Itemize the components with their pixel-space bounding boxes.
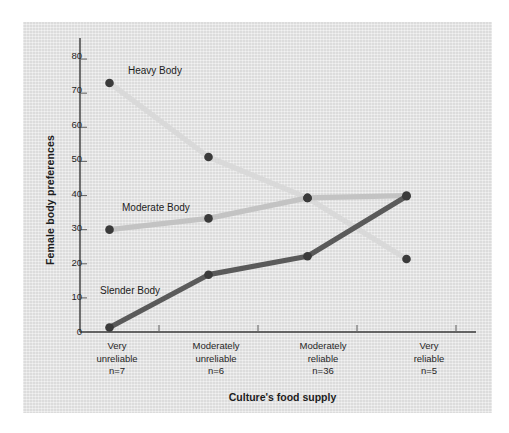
x-tick-label-moderately-reliable: Moderately reliable n=36 [275,340,371,378]
x-tick-line-1: Very [384,340,474,353]
figure: Female body preferences Culture's food s… [0,0,509,433]
x-tick-label-very-reliable: Very reliable n=5 [384,340,474,378]
x-tick-line-2: unreliable [72,353,162,366]
x-tick-line-1: Moderately [275,340,371,353]
y-tick-label: 10 [56,291,82,302]
data-point [105,323,114,332]
y-tick-label: 80 [56,50,82,61]
data-point [204,270,213,279]
y-tick-label: 30 [56,222,82,233]
x-tick-line-3: n=6 [168,365,264,378]
data-point [303,252,312,261]
series-heavy-body [110,83,407,259]
y-tick-label: 70 [56,84,82,95]
data-point [303,194,312,203]
x-tick-line-2: reliable [384,353,474,366]
y-tick-label: 50 [56,153,82,164]
x-tick-line-3: n=7 [72,365,162,378]
data-point [402,192,411,201]
data-point [204,153,213,162]
x-tick-line-3: n=5 [384,365,474,378]
series-label-heavy-body: Heavy Body [128,65,182,76]
x-axis-title: Culture's food supply [0,391,509,403]
x-tick-line-2: reliable [275,353,371,366]
y-axis-title: Female body preferences [44,135,56,265]
series-label-moderate-body: Moderate Body [122,202,190,213]
series-slender-body [110,196,407,327]
x-tick-line-2: unreliable [168,353,264,366]
data-point [105,225,114,234]
data-point [204,214,213,223]
y-tick-label: 0 [56,326,82,337]
x-tick-label-very-unreliable: Very unreliable n=7 [72,340,162,378]
x-tick-line-1: Very [72,340,162,353]
x-tick-line-1: Moderately [168,340,264,353]
y-tick-label: 20 [56,257,82,268]
series-label-slender-body: Slender Body [100,285,160,296]
x-tick-line-3: n=36 [275,365,371,378]
y-tick-label: 40 [56,188,82,199]
y-tick-label: 60 [56,119,82,130]
data-point [402,255,411,264]
x-tick-label-moderately-unreliable: Moderately unreliable n=6 [168,340,264,378]
data-point [105,79,114,88]
